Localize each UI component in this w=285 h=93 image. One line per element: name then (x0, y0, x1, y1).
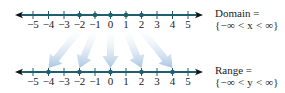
range-tick-label: −1 (89, 75, 101, 87)
range-label-expression: {−∞ < y < ∞} (215, 76, 279, 88)
range-point (108, 70, 113, 75)
mapping-arrow-icon (139, 28, 173, 68)
domain-point (77, 13, 82, 18)
domain-label: Domain = {−∞ < x < ∞} (215, 7, 279, 31)
domain-tick-label: 2 (139, 18, 145, 30)
domain-tick-label: 4 (170, 18, 176, 30)
range-tick-label: −4 (43, 75, 55, 87)
range-tick-label: 0 (108, 75, 114, 87)
domain-tick-label: 0 (108, 18, 114, 30)
range-point (77, 70, 82, 75)
range-point (139, 70, 144, 75)
domain-point (93, 13, 98, 18)
domain-tick-label: −1 (89, 18, 101, 30)
range-tick-label: 4 (170, 75, 176, 87)
range-tick-label: −5 (27, 75, 39, 87)
domain-tick-label: 5 (185, 18, 191, 30)
domain-label-expression: {−∞ < x < ∞} (215, 19, 279, 31)
domain-tick-label: −3 (58, 18, 70, 30)
range-label-title: Range = (215, 64, 279, 76)
domain-point (108, 13, 113, 18)
domain-tick-label: −5 (27, 18, 39, 30)
mapping-arrows (49, 28, 173, 68)
domain-number-line: −5−4−3−2−1012345 (15, 11, 203, 30)
range-label: Range = {−∞ < y < ∞} (215, 64, 279, 88)
domain-tick-label: 1 (123, 18, 129, 30)
range-tick-label: 1 (123, 75, 129, 87)
domain-tick-label: 3 (154, 18, 160, 30)
mapping-arrow-icon (49, 28, 83, 68)
mapping-arrow-icon (103, 30, 119, 68)
domain-point (139, 13, 144, 18)
range-tick-label: −2 (74, 75, 86, 87)
range-tick-label: 5 (185, 75, 191, 87)
domain-label-title: Domain = (215, 7, 279, 19)
range-tick-label: 3 (154, 75, 160, 87)
range-tick-label: −3 (58, 75, 70, 87)
range-tick-label: 2 (139, 75, 145, 87)
domain-tick-label: −2 (74, 18, 86, 30)
range-point (46, 70, 51, 75)
range-number-line: −5−4−3−2−1012345 (15, 68, 203, 87)
domain-point (124, 13, 129, 18)
domain-tick-label: −4 (43, 18, 55, 30)
range-point (170, 70, 175, 75)
